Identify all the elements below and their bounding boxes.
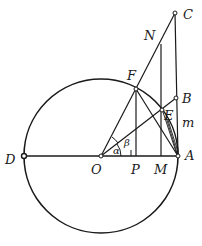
point-F <box>134 87 138 91</box>
label-A: A <box>184 148 194 163</box>
point-B <box>174 96 178 100</box>
point-D <box>22 154 27 159</box>
label-m: m <box>182 115 194 130</box>
point-A <box>176 154 180 158</box>
label-M: M <box>153 162 168 177</box>
label-P: P <box>130 162 140 177</box>
label-D: D <box>4 152 16 167</box>
label-beta: β <box>123 137 130 148</box>
label-E: E <box>163 108 174 123</box>
point-C <box>173 11 177 15</box>
angle-beta-arc <box>112 137 118 143</box>
geometry-diagram: C N F B E m D O P M A α β <box>0 0 202 246</box>
label-alpha: α <box>113 145 120 156</box>
label-C: C <box>183 7 193 22</box>
label-N: N <box>143 28 156 43</box>
label-B: B <box>181 91 192 106</box>
label-O: O <box>91 162 102 177</box>
label-F: F <box>126 68 137 83</box>
point-O <box>99 154 103 158</box>
